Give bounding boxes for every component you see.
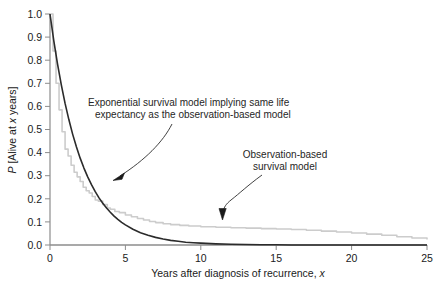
y-tick-label: 0.1: [27, 216, 42, 228]
y-axis-title-mid: [Alive at: [6, 123, 18, 166]
exponential-annotation-line2: expectancy as the observation-based mode…: [95, 109, 291, 120]
x-axis-title: Years after diagnosis of recurrence, x: [151, 267, 325, 279]
y-tick-label: 0.0: [27, 239, 42, 251]
y-axis-ticks: [45, 14, 50, 245]
observation-annotation-leader-line: [223, 175, 262, 212]
y-tick-label: 0.6: [27, 100, 42, 112]
y-axis-tick-labels: 0.0 0.1 0.2 0.3 0.4 0.5 0.6 0.7 0.8 0.9 …: [27, 8, 42, 251]
axes-group: [50, 14, 427, 245]
observation-annotation-line1: Observation-based: [243, 149, 328, 160]
observation-annotation: Observation-based survival model: [219, 149, 327, 220]
y-tick-label: 0.7: [27, 77, 42, 89]
exponential-annotation-arrowhead: [113, 173, 125, 181]
chart-canvas: 0.0 0.1 0.2 0.3 0.4 0.5 0.6 0.7 0.8 0.9 …: [0, 0, 443, 285]
observation-annotation-line2: survival model: [253, 161, 317, 172]
x-tick-label: 20: [346, 252, 358, 264]
y-axis-title: P [Alive at x years]: [6, 86, 18, 173]
x-tick-label: 25: [421, 252, 433, 264]
y-tick-label: 1.0: [27, 8, 42, 20]
y-axis-title-end: years]: [6, 86, 18, 118]
y-tick-label: 0.2: [27, 193, 42, 205]
observation-based-survival-curve: [50, 14, 427, 239]
exponential-annotation-leader-line: [120, 124, 172, 176]
y-tick-label: 0.9: [27, 31, 42, 43]
exponential-survival-curve: [50, 14, 427, 245]
y-tick-label: 0.3: [27, 169, 42, 181]
survival-curve-figure: 0.0 0.1 0.2 0.3 0.4 0.5 0.6 0.7 0.8 0.9 …: [0, 0, 443, 285]
observation-annotation-arrowhead: [219, 209, 226, 221]
x-tick-label: 0: [47, 252, 53, 264]
x-axis-tick-labels: 0 5 10 15 20 25: [47, 252, 433, 264]
x-tick-label: 5: [122, 252, 128, 264]
y-tick-label: 0.4: [27, 146, 42, 158]
x-tick-label: 10: [195, 252, 207, 264]
x-axis-title-variable: x: [319, 267, 326, 279]
y-tick-label: 0.8: [27, 54, 42, 66]
x-axis-title-main: Years after diagnosis of recurrence,: [151, 267, 319, 279]
exponential-annotation-line1: Exponential survival model implying same…: [88, 97, 290, 108]
y-tick-label: 0.5: [27, 123, 42, 135]
x-tick-label: 15: [270, 252, 282, 264]
y-axis-title-p: P: [6, 166, 18, 173]
data-series-group: [50, 14, 427, 245]
